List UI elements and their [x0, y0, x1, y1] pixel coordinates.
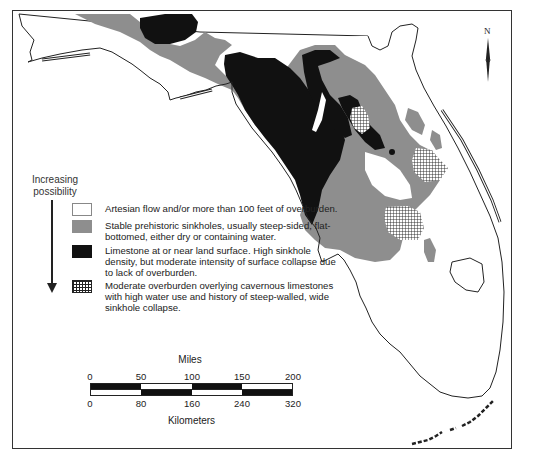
- miles-tick: 0: [87, 371, 92, 382]
- miles-tick: 100: [184, 371, 200, 382]
- swatch-black: [72, 245, 92, 258]
- scale-bar: Miles 0 50 100 150 200 0 80 160 240 320 …: [90, 358, 310, 418]
- miles-tick: 150: [234, 371, 250, 382]
- north-arrow-icon: [486, 38, 490, 82]
- km-tick: 80: [136, 398, 147, 409]
- km-tick: 0: [87, 398, 92, 409]
- miles-tick: 200: [285, 371, 301, 382]
- kilometers-label: Kilometers: [90, 415, 293, 426]
- miles-label: Miles: [90, 354, 290, 365]
- swatch-hatch: [72, 280, 92, 293]
- arrow-down-icon: [47, 283, 57, 293]
- km-tick: 320: [285, 398, 301, 409]
- legend-item-stable-prehistoric: Stable prehistoric sinkholes, usually st…: [72, 220, 340, 242]
- km-tick: 240: [234, 398, 250, 409]
- legend-title: Increasing possibility: [20, 174, 90, 198]
- increasing-arrow-line: [51, 200, 53, 284]
- miles-tick: 50: [136, 371, 147, 382]
- km-tick: 160: [184, 398, 200, 409]
- swatch-white: [72, 203, 92, 216]
- north-label: N: [484, 26, 491, 36]
- legend-item-cavernous-limestone: Moderate overburden overlying cavernous …: [72, 280, 340, 313]
- kilometers-bar: [90, 389, 293, 396]
- legend-item-limestone-surface: Limestone at or near land surface. High …: [72, 245, 340, 278]
- swatch-gray: [72, 220, 92, 233]
- region-limestone-sink-dot: [389, 149, 395, 155]
- florida-keys: [412, 400, 494, 444]
- legend-item-artesian: Artesian flow and/or more than 100 feet …: [72, 203, 340, 216]
- region-limestone-surface: [140, 14, 198, 44]
